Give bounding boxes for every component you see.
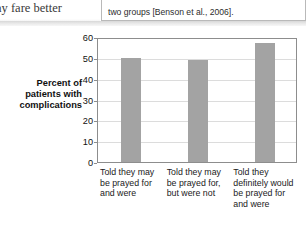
page-top-strip: ay fare better two groups [Benson et al.… — [0, 0, 306, 22]
y-tick-label: 50 — [66, 55, 93, 64]
y-tick-mark — [94, 142, 97, 143]
y-axis-tick-labels: 0102030405060 — [66, 38, 93, 163]
bar-chart-figure: Percent of patients with complications 0… — [0, 26, 306, 227]
plot-area — [97, 38, 297, 163]
x-tick-label: Told they may be prayed for, but were no… — [167, 167, 231, 199]
callout-text: two groups [Benson et al., 2006]. — [108, 7, 234, 17]
gridline — [98, 38, 296, 39]
bar — [121, 58, 141, 162]
y-tick-label: 0 — [66, 159, 93, 168]
x-axis-tick-labels: Told they may be prayed for and wereTold… — [97, 167, 297, 227]
y-tick-mark — [94, 59, 97, 60]
x-tick-label: Told they definitely would be prayed for… — [233, 167, 297, 209]
y-tick-mark — [94, 163, 97, 164]
y-tick-mark — [94, 80, 97, 81]
bar — [255, 43, 275, 162]
y-tick-label: 10 — [66, 138, 93, 147]
x-tick-label: Told they may be prayed for and were — [100, 167, 164, 199]
callout-box: two groups [Benson et al., 2006]. — [101, 0, 306, 21]
y-tick-label: 20 — [66, 117, 93, 126]
bar — [188, 60, 208, 162]
y-tick-label: 40 — [66, 76, 93, 85]
y-tick-mark — [94, 121, 97, 122]
y-tick-label: 30 — [66, 97, 93, 106]
y-tick-mark — [94, 101, 97, 102]
left-running-text: ay fare better — [0, 1, 62, 15]
y-tick-label: 60 — [66, 34, 93, 43]
y-tick-mark — [94, 38, 97, 39]
